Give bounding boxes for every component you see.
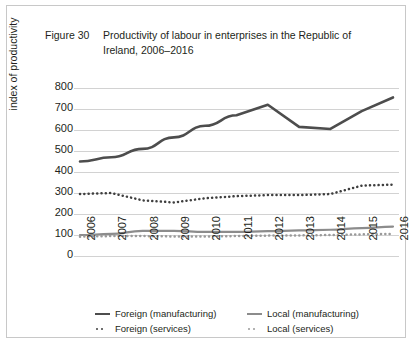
y-axis-tick-label: 600 — [27, 122, 73, 134]
x-axis-tick-label: 2011 — [242, 216, 254, 262]
legend-dotted-line-icon — [95, 324, 110, 334]
x-axis-tick-label: 2013 — [304, 216, 316, 262]
series-line — [80, 97, 393, 161]
series-line — [80, 185, 393, 203]
legend-row: Foreign (services)Local (services) — [95, 321, 385, 336]
legend-solid-line-icon — [95, 309, 110, 319]
legend-row: Foreign (manufacturing)Local (manufactur… — [95, 306, 385, 321]
y-axis-tick-label: 500 — [27, 143, 73, 155]
legend-solid-line-icon — [247, 309, 262, 319]
legend-item-label: Local (manufacturing) — [267, 308, 359, 319]
y-axis-tick-label: 800 — [27, 80, 73, 92]
legend-item[interactable]: Foreign (manufacturing) — [95, 308, 247, 319]
x-axis-tick-label: 2010 — [210, 216, 222, 262]
legend-item[interactable]: Foreign (services) — [95, 323, 247, 334]
x-axis-tick-label: 2012 — [273, 216, 285, 262]
y-axis-tick-label: 100 — [27, 227, 73, 239]
x-axis-tick-label: 2014 — [335, 216, 347, 262]
y-axis-tick-label: 400 — [27, 164, 73, 176]
x-axis-tick-label: 2007 — [116, 216, 128, 262]
figure-number: Figure 30 — [45, 28, 103, 43]
chart-legend: Foreign (manufacturing)Local (manufactur… — [95, 306, 385, 336]
x-axis-tick-label: 2008 — [148, 216, 160, 262]
x-axis-tick-label: 2015 — [367, 216, 379, 262]
figure-title: Productivity of labour in enterprises in… — [103, 28, 379, 58]
figure-caption: Figure 30Productivity of labour in enter… — [45, 28, 385, 58]
legend-item[interactable]: Local (services) — [247, 323, 334, 334]
x-axis-tick-label: 2006 — [85, 216, 97, 262]
y-axis-tick-label: 300 — [27, 185, 73, 197]
legend-dotted-line-icon — [247, 324, 262, 334]
legend-item-label: Foreign (services) — [115, 323, 191, 334]
legend-item-label: Foreign (manufacturing) — [115, 308, 216, 319]
y-axis-title: index of productivity — [7, 0, 19, 144]
y-axis-tick-label: 0 — [27, 248, 73, 260]
figure-frame: Figure 30Productivity of labour in enter… — [6, 5, 406, 338]
legend-item[interactable]: Local (manufacturing) — [247, 308, 359, 319]
y-axis-tick-label: 700 — [27, 101, 73, 113]
x-axis-tick-label: 2016 — [398, 216, 410, 262]
y-axis-tick-label: 200 — [27, 206, 73, 218]
x-axis-tick-label: 2009 — [179, 216, 191, 262]
legend-item-label: Local (services) — [267, 323, 334, 334]
